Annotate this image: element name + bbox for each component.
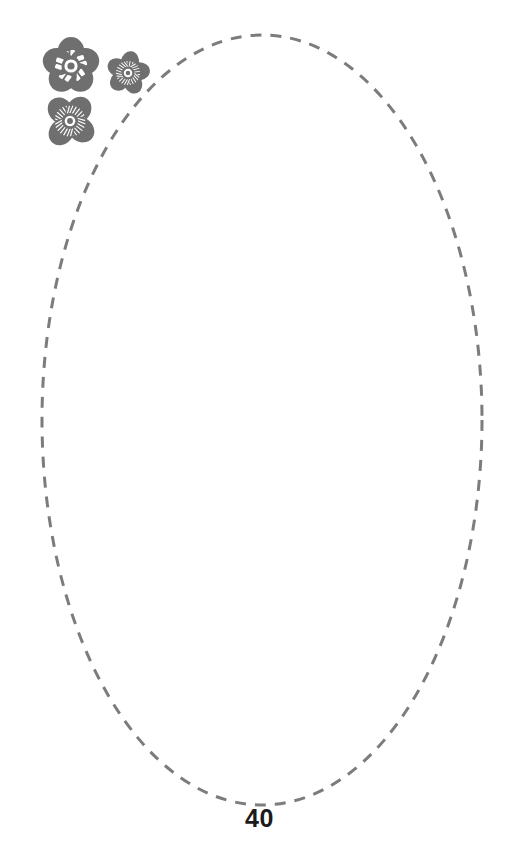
flower-cluster-decoration [34, 33, 164, 163]
journal-page: 40 [0, 0, 519, 862]
flower-small-striped-icon [104, 50, 151, 97]
flower-large-blocky-icon [39, 37, 103, 97]
page-number: 40 [0, 806, 519, 831]
flower-medium-fan-icon [42, 92, 99, 151]
writing-content-area[interactable] [70, 70, 450, 770]
